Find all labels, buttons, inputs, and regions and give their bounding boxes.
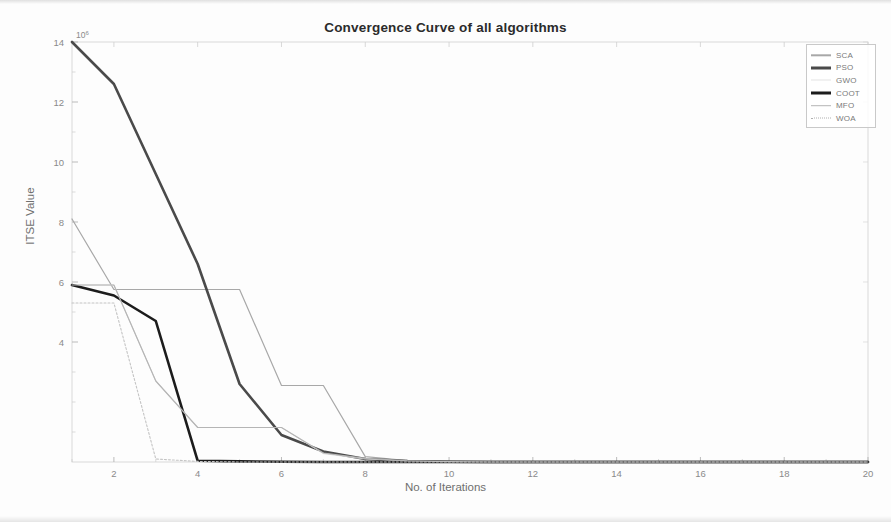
legend-item-sca[interactable]: SCA xyxy=(810,49,872,62)
x-tick-label: 12 xyxy=(528,468,539,479)
axes-group: 2468101214161820468101214106 xyxy=(53,30,873,480)
legend-item-woa[interactable]: WOA xyxy=(810,112,872,125)
legend-label-mfo: MFO xyxy=(832,101,854,110)
y-tick-label: 4 xyxy=(59,337,64,348)
legend-swatch-coot-icon xyxy=(810,88,832,98)
plot-area: 2468101214161820468101214106 xyxy=(0,0,891,522)
y-tick-label: 12 xyxy=(53,97,64,108)
legend-item-mfo[interactable]: MFO xyxy=(810,99,872,112)
x-tick-label: 8 xyxy=(363,468,368,479)
x-axis-label: No. of Iterations xyxy=(0,481,891,493)
chart-legend[interactable]: SCAPSOGWOCOOTMFOWOA xyxy=(806,44,876,128)
y-tick-label: 10 xyxy=(53,157,64,168)
series-line-coot xyxy=(72,285,868,462)
legend-item-gwo[interactable]: GWO xyxy=(810,74,872,87)
x-tick-label: 20 xyxy=(863,468,874,479)
legend-label-pso: PSO xyxy=(832,63,854,72)
x-tick-label: 16 xyxy=(695,468,706,479)
legend-label-gwo: GWO xyxy=(832,76,857,85)
x-tick-label: 14 xyxy=(611,468,622,479)
convergence-chart-figure: Convergence Curve of all algorithms 2468… xyxy=(0,0,891,522)
legend-swatch-pso-icon xyxy=(810,63,832,73)
y-axis-label: ITSE Value xyxy=(24,156,36,276)
legend-swatch-sca-icon xyxy=(810,50,832,60)
legend-item-pso[interactable]: PSO xyxy=(810,62,872,75)
x-tick-label: 18 xyxy=(779,468,790,479)
legend-swatch-woa-icon xyxy=(810,113,832,123)
legend-label-coot: COOT xyxy=(832,89,860,98)
x-tick-label: 4 xyxy=(195,468,200,479)
legend-swatch-gwo-icon xyxy=(810,75,832,85)
legend-label-woa: WOA xyxy=(832,114,856,123)
x-tick-label: 2 xyxy=(111,468,116,479)
y-tick-label: 6 xyxy=(59,277,64,288)
legend-swatch-mfo-icon xyxy=(810,101,832,111)
legend-item-coot[interactable]: COOT xyxy=(810,87,872,100)
y-tick-label: 8 xyxy=(59,217,64,228)
x-tick-label: 6 xyxy=(279,468,284,479)
series-line-pso xyxy=(72,42,868,462)
series-line-sca xyxy=(72,219,868,462)
x-tick-label: 10 xyxy=(444,468,455,479)
y-tick-label: 14 xyxy=(53,37,64,48)
legend-label-sca: SCA xyxy=(832,51,853,60)
y-axis-exponent-label: 106 xyxy=(76,30,89,41)
series-group xyxy=(72,42,868,462)
